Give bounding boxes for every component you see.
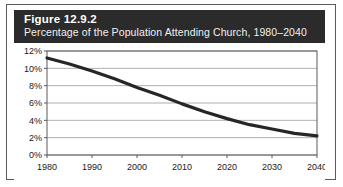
figure-label: Figure 12.9.2 — [24, 13, 325, 26]
figure-subtitle: Percentage of the Population Attending C… — [24, 26, 325, 39]
svg-text:2030: 2030 — [262, 162, 282, 172]
svg-text:1990: 1990 — [82, 162, 102, 172]
svg-text:2000: 2000 — [127, 162, 147, 172]
x-axis-ticks: 1980199020002010202020302040 — [37, 155, 325, 172]
svg-text:2020: 2020 — [217, 162, 237, 172]
figure-header: Figure 12.9.2 Percentage of the Populati… — [14, 10, 325, 43]
svg-text:6%: 6% — [29, 98, 42, 108]
svg-text:10%: 10% — [24, 64, 42, 74]
svg-text:2%: 2% — [29, 133, 42, 143]
svg-text:2010: 2010 — [172, 162, 192, 172]
svg-text:8%: 8% — [29, 81, 42, 91]
line-chart: 0%2%4%6%8%10%12% 19801990200020102020203… — [14, 43, 325, 180]
data-line — [47, 58, 317, 136]
svg-text:0%: 0% — [29, 150, 42, 160]
svg-text:2040: 2040 — [307, 162, 325, 172]
figure-container: Figure 12.9.2 Percentage of the Populati… — [6, 4, 336, 180]
chart-area: 0%2%4%6%8%10%12% 19801990200020102020203… — [14, 43, 325, 180]
y-axis-ticks: 0%2%4%6%8%10%12% — [24, 46, 47, 160]
svg-text:1980: 1980 — [37, 162, 57, 172]
svg-text:4%: 4% — [29, 116, 42, 126]
svg-text:12%: 12% — [24, 46, 42, 56]
